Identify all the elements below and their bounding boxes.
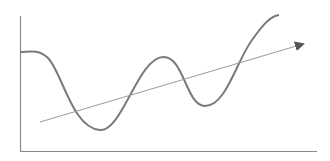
trend-arrow (40, 44, 303, 122)
diagram-svg (0, 0, 330, 161)
trend-diagram (0, 0, 330, 161)
wave-curve (20, 15, 279, 130)
